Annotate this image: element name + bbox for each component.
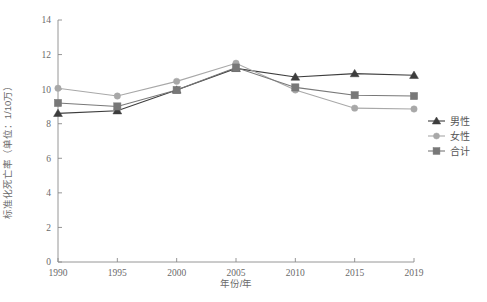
- y-tick-label: 12: [42, 50, 52, 60]
- data-point-marker: [55, 85, 61, 91]
- data-point-marker: [411, 106, 417, 112]
- y-tick-label: 4: [46, 188, 51, 198]
- legend-marker-合计: [433, 148, 440, 155]
- data-point-marker: [351, 92, 358, 99]
- legend-label-女性: 女性: [450, 130, 470, 142]
- y-tick-label: 2: [46, 223, 51, 233]
- y-axis-title: 标准化死亡率（单位：1/10万）: [2, 81, 13, 220]
- y-tick-label: 6: [46, 154, 51, 164]
- x-tick-label: 1995: [108, 268, 127, 278]
- series-合计: [54, 64, 417, 110]
- x-tick-label: 2015: [345, 268, 364, 278]
- x-tick-label: 1990: [49, 268, 68, 278]
- x-tick-label: 2005: [227, 268, 246, 278]
- y-tick-label: 14: [42, 15, 52, 25]
- y-tick-label: 10: [42, 85, 52, 95]
- data-point-marker: [54, 99, 61, 106]
- x-axis-ticks: 1990199520002005201020152019: [49, 258, 424, 278]
- series-group: [54, 60, 419, 116]
- data-point-marker: [232, 64, 239, 71]
- x-tick-label: 2010: [286, 268, 305, 278]
- x-tick-label: 2000: [167, 268, 186, 278]
- y-tick-label: 0: [46, 257, 51, 267]
- data-point-marker: [410, 92, 417, 99]
- x-tick-label: 2019: [405, 268, 424, 278]
- legend-marker-女性: [433, 133, 439, 139]
- line-chart: 02468101214 1990199520002005201020152019…: [0, 0, 487, 302]
- y-axis-ticks: 02468101214: [42, 15, 63, 267]
- data-point-marker: [350, 69, 359, 76]
- y-tick-label: 8: [46, 119, 51, 129]
- legend-label-合计: 合计: [450, 145, 470, 157]
- legend-label-男性: 男性: [450, 115, 470, 127]
- data-point-marker: [351, 105, 357, 111]
- chart-legend: 男性女性合计: [428, 115, 470, 157]
- data-point-marker: [173, 78, 179, 84]
- x-axis-title: 年份/年: [220, 278, 253, 289]
- data-point-marker: [292, 84, 299, 91]
- chart-container: 02468101214 1990199520002005201020152019…: [0, 0, 487, 302]
- data-point-marker: [114, 93, 120, 99]
- data-point-marker: [114, 103, 121, 110]
- data-point-marker: [173, 86, 180, 93]
